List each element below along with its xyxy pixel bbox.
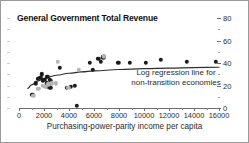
y-tick-left-stub	[7, 18, 10, 19]
regression-annotation: Log regression line for non-transition e…	[127, 68, 225, 88]
y-tick-left-stub	[7, 52, 10, 53]
x-tick-label: 14000	[184, 111, 205, 120]
y-tick-left-stub	[7, 108, 10, 109]
chart-figure: General Government Total Revenue Log reg…	[0, 0, 249, 143]
y-tick-minor	[218, 74, 220, 75]
x-tick-label: 10000	[134, 111, 155, 120]
y-tick-label: 40	[223, 59, 231, 68]
y-tick	[217, 63, 221, 64]
y-tick	[217, 86, 221, 87]
y-tick	[217, 41, 221, 42]
y-tick-minor	[218, 52, 220, 53]
y-tick-left-stub	[7, 63, 10, 64]
y-tick-minor	[218, 29, 220, 30]
y-tick-minor	[218, 97, 220, 98]
x-tick-minor	[107, 108, 108, 110]
y-tick-label: 60	[223, 36, 231, 45]
x-tick-minor	[207, 108, 208, 110]
y-tick-left-stub	[7, 29, 10, 30]
x-tick-minor	[82, 108, 83, 110]
x-tick-minor	[157, 108, 158, 110]
x-tick-minor	[182, 108, 183, 110]
y-tick-left-stub	[7, 97, 10, 98]
y-tick-left-stub	[7, 41, 10, 42]
x-tick-minor	[57, 108, 58, 110]
x-tick-label: 6000	[86, 111, 102, 120]
y-tick	[217, 18, 221, 19]
x-tick-minor	[32, 108, 33, 110]
y-tick	[217, 108, 221, 109]
y-tick-label: 20	[223, 81, 231, 90]
x-axis-title: Purchasing-power-parity income per capit…	[1, 122, 248, 131]
x-tick-label: 12000	[159, 111, 180, 120]
y-tick-left-stub	[7, 86, 10, 87]
x-tick-label: 2000	[36, 111, 52, 120]
regression-annotation-line2: non-transition economies	[127, 78, 225, 88]
y-tick-label: 80	[223, 14, 231, 23]
regression-annotation-line1: Log regression line for	[127, 68, 225, 78]
y-tick-label: 0	[223, 104, 227, 113]
x-tick-label: 8000	[111, 111, 127, 120]
x-tick-label: 0	[17, 111, 21, 120]
y-tick-left-stub	[7, 74, 10, 75]
x-tick-label: 4000	[61, 111, 77, 120]
x-tick-minor	[132, 108, 133, 110]
